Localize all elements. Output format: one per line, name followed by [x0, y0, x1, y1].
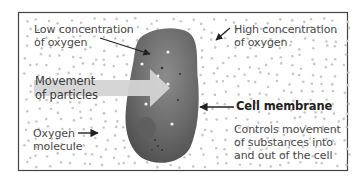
- diffusion-diagram: Low concentration of oxygen High concent…: [0, 0, 362, 188]
- movement-line1: Movement: [35, 74, 98, 88]
- membrane-description-line3: and out of the cell: [234, 149, 341, 162]
- low-concentration-label: Low concentration of oxygen: [34, 23, 134, 49]
- oxygen-molecule-line1: Oxygen: [33, 127, 82, 140]
- membrane-description: Controls movement of substances into and…: [234, 123, 341, 162]
- oxygen-molecule-label: Oxygen molecule: [33, 127, 82, 153]
- oxygen-molecule-line2: molecule: [33, 140, 82, 153]
- membrane-description-line2: of substances into: [234, 136, 341, 149]
- cell-membrane-label: Cell membrane: [236, 100, 332, 113]
- high-concentration-line1: High concentration: [234, 23, 337, 36]
- high-concentration-line2: of oxygen: [234, 36, 337, 49]
- low-concentration-line1: Low concentration: [34, 23, 134, 36]
- movement-label: Movement of particles: [35, 74, 98, 102]
- movement-line2: of particles: [35, 88, 98, 102]
- low-concentration-line2: of oxygen: [34, 36, 134, 49]
- membrane-description-line1: Controls movement: [234, 123, 341, 136]
- nucleus: [136, 117, 156, 139]
- high-concentration-label: High concentration of oxygen: [234, 23, 337, 49]
